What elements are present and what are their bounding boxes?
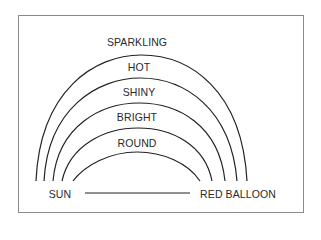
label-shiny: SHINY	[123, 86, 156, 98]
label-red-balloon: RED BALLOON	[200, 188, 276, 200]
arch-4	[62, 128, 212, 181]
label-round: ROUND	[118, 137, 157, 149]
label-sun: SUN	[49, 188, 71, 200]
label-bright: BRIGHT	[117, 111, 157, 123]
arch-inner	[73, 152, 200, 181]
label-sparkling: SPARKLING	[107, 36, 167, 48]
label-hot: HOT	[128, 61, 150, 73]
